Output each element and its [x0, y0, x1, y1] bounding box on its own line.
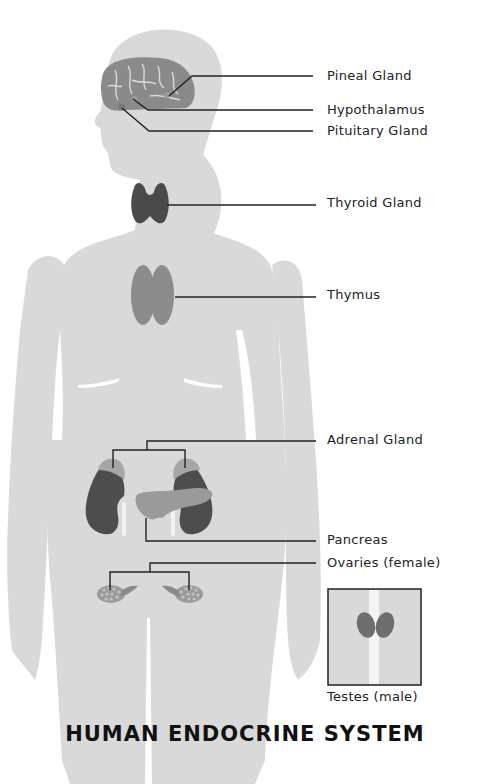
label-hypothalamus: Hypothalamus — [327, 102, 425, 117]
label-testes: Testes (male) — [327, 689, 418, 704]
brain — [101, 57, 195, 111]
endocrine-diagram — [0, 0, 490, 784]
label-adrenal-gland: Adrenal Gland — [327, 432, 423, 447]
label-pineal-gland: Pineal Gland — [327, 68, 412, 83]
label-ovaries: Ovaries (female) — [327, 555, 441, 570]
label-pancreas: Pancreas — [327, 532, 388, 547]
label-thymus: Thymus — [327, 287, 380, 302]
page-title: HUMAN ENDOCRINE SYSTEM — [0, 722, 490, 746]
label-thyroid-gland: Thyroid Gland — [327, 195, 422, 210]
label-pituitary-gland: Pituitary Gland — [327, 123, 428, 138]
testes-inset — [328, 589, 421, 685]
